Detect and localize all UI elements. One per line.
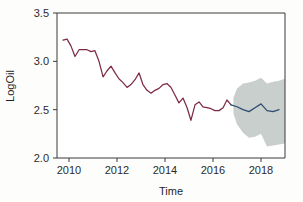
x-tick-label: 2018 [249,164,273,176]
y-axis-ticks: 2.02.53.03.5 [34,7,57,164]
x-axis-title: Time [159,185,183,197]
y-tick-label: 3.5 [34,7,49,19]
y-tick-label: 2.0 [34,152,49,164]
x-axis-ticks: 20102012201420162018 [57,158,273,176]
logoil-time-series-chart: 2.02.53.03.5 20102012201420162018 Time L… [0,0,303,202]
chart-figure: 2.02.53.03.5 20102012201420162018 Time L… [0,0,303,202]
x-tick-label: 2014 [153,164,177,176]
y-axis-title: LogOil [4,70,16,102]
y-tick-label: 2.5 [34,104,49,116]
x-tick-label: 2010 [57,164,81,176]
y-tick-label: 3.0 [34,55,49,67]
x-tick-label: 2012 [105,164,129,176]
x-tick-label: 2016 [201,164,225,176]
